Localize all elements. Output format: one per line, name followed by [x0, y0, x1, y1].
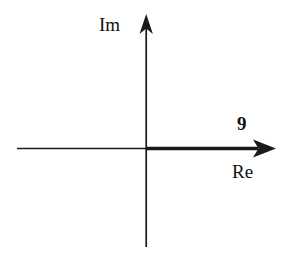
vector-magnitude-label: 9 — [237, 114, 247, 133]
imaginary-axis-label: Im — [99, 15, 120, 34]
real-axis-label: Re — [232, 162, 253, 181]
